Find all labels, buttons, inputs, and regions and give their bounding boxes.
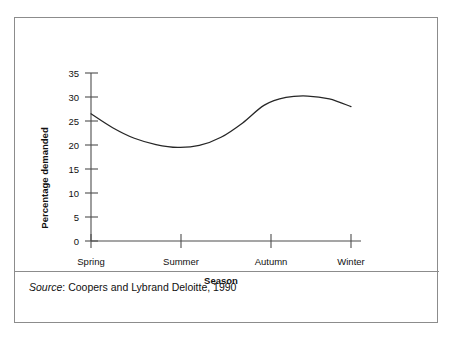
y-axis-ticks: 0 5 10 15 20 25 30 35 [68,68,98,247]
y-tick-label-2: 10 [68,188,79,199]
demand-curve-line [91,96,351,147]
y-tick-label-1: 5 [74,212,79,223]
y-tick-label-6: 30 [68,92,79,103]
y-tick-label-4: 20 [68,140,79,151]
source-note: Source: Coopers and Lybrand Deloitte, 19… [29,280,429,294]
x-tick-label-autumn: Autumn [255,256,288,267]
source-label: Source [29,281,62,293]
source-divider [15,271,439,272]
source-separator: : [62,281,65,293]
x-tick-label-spring: Spring [77,256,104,267]
x-axis-ticks: Spring Summer Autumn Winter [77,234,364,267]
source-value: Coopers and Lybrand Deloitte, 1990 [68,281,236,293]
x-tick-label-winter: Winter [337,256,364,267]
y-tick-label-7: 35 [68,68,79,79]
figure-frame: Percentage demanded 0 5 10 15 20 25 [14,17,438,323]
chart-plot-area: Percentage demanded 0 5 10 15 20 25 [15,18,439,324]
y-tick-label-5: 25 [68,116,79,127]
line-chart-svg: Percentage demanded 0 5 10 15 20 25 [15,18,439,324]
y-axis-label: Percentage demanded [39,127,50,229]
x-tick-label-summer: Summer [163,256,199,267]
y-tick-label-0: 0 [74,236,79,247]
y-tick-label-3: 15 [68,164,79,175]
